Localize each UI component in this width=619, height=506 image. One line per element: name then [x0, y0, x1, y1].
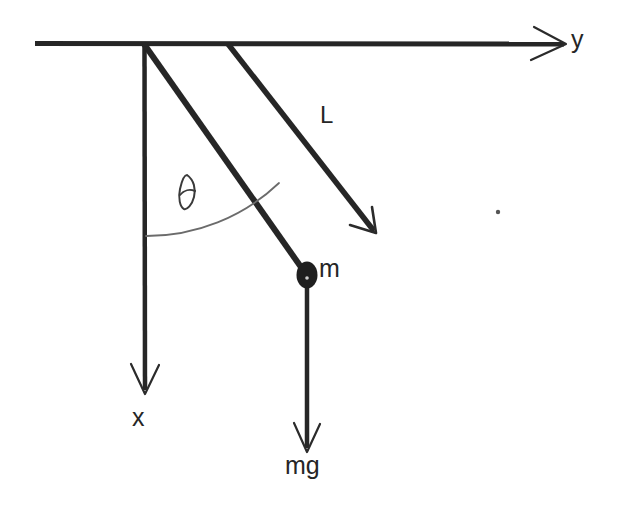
length-label: L — [320, 103, 333, 127]
diagram-canvas: y L m x mg — [0, 0, 619, 506]
pendulum-diagram — [0, 0, 619, 506]
scan-speck — [496, 210, 500, 214]
pendulum-bob-mass — [297, 262, 318, 289]
y-axis-shaft — [35, 44, 564, 45]
weight-label: mg — [285, 453, 320, 478]
pendulum-rod — [144, 44, 308, 277]
y-axis-label: y — [571, 27, 584, 52]
x-axis-shaft — [145, 44, 146, 390]
x-axis-label: x — [132, 405, 145, 430]
length-arrow-shaft — [228, 44, 374, 231]
theta-glyph — [179, 175, 195, 209]
mass-label: m — [319, 256, 340, 281]
